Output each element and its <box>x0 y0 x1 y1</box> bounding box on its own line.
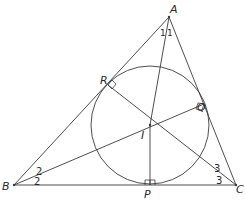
angle-mark-c-upper: 3 <box>214 163 220 174</box>
point-i <box>149 124 151 126</box>
angle-mark-c-lower: 3 <box>216 175 222 186</box>
label-b: B <box>2 180 10 193</box>
label-q: Q <box>197 101 206 114</box>
label-a: A <box>169 3 178 16</box>
label-r: R <box>100 74 108 87</box>
incircle-diagram: A B C I P Q R 1 1 2 2 3 3 <box>0 0 245 205</box>
label-i: I <box>141 129 144 142</box>
bisector-bq <box>14 104 204 185</box>
angle-mark-b-lower: 2 <box>34 176 40 187</box>
angle-mark-a-left: 1 <box>160 28 166 38</box>
point-a <box>168 16 170 18</box>
angle-mark-a-right: 1 <box>167 28 173 38</box>
label-c: C <box>236 183 244 196</box>
point-b <box>13 184 15 186</box>
label-p: P <box>144 188 151 201</box>
